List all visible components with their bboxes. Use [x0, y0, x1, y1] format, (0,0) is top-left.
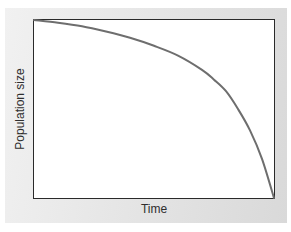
population-line: [34, 20, 274, 198]
population-curve: [33, 19, 275, 199]
x-axis-label: Time: [33, 202, 275, 216]
y-axis-label: Population size: [13, 68, 27, 149]
